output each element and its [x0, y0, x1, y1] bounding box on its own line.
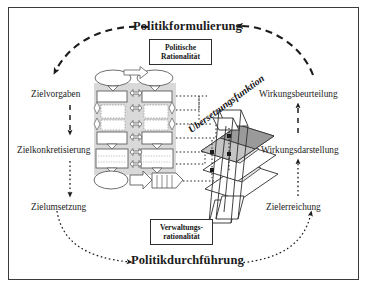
policy-cycle-figure: Politikformulierung Politikdurchführung …: [0, 0, 369, 290]
phase-label-zielumsetzung: Zielumsetzung: [31, 202, 86, 212]
phase-label-zielkonkretisierung: Zielkonkretisierung: [17, 145, 90, 155]
rationality-box-administrative-line1: Verwaltungs-: [151, 223, 212, 232]
rationality-box-administrative-line2: rationalität: [151, 232, 212, 241]
phase-label-wirkungsdarstellung: Wirkungsdarstellung: [261, 145, 339, 155]
rationality-box-political-line2: Rationalität: [150, 52, 211, 61]
cycle-arc-bottom-right: [239, 213, 311, 263]
cycle-arc-top-right: [239, 26, 313, 75]
phase-label-zielvorgaben: Zielvorgaben: [31, 89, 80, 99]
flow-model-diagram: [94, 67, 183, 190]
phase-label-zielerreichung: Zielerreichung: [266, 202, 321, 212]
cycle-arc-bottom-left: [57, 211, 130, 262]
page-title-politikdurchfuehrung: Politikdurchführung: [131, 253, 244, 268]
phase-label-wirkungsbeurteilung: Wirkungsbeurteilung: [259, 89, 338, 99]
rationality-box-political: Politische Rationalität: [149, 39, 212, 65]
page-title-politikformulierung: Politikformulierung: [133, 19, 242, 34]
rationality-box-political-line1: Politische: [150, 43, 211, 52]
rationality-box-administrative: Verwaltungs- rationalität: [150, 219, 213, 245]
